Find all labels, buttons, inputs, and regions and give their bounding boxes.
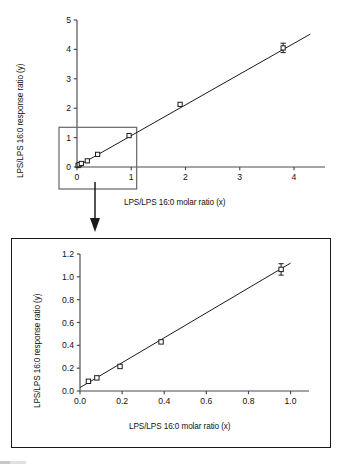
bottom-chart-data-point — [159, 340, 163, 344]
top-chart-x-tick-label: 0 — [75, 172, 80, 182]
bottom-chart-x-tick-label: 1.0 — [285, 396, 297, 406]
top-chart-data-point — [281, 46, 285, 50]
bottom-chart-data-point — [86, 379, 90, 383]
top-chart-x-tick-label: 3 — [237, 172, 242, 182]
bottom-chart-x-tick-label: 0.4 — [158, 396, 170, 406]
bottom-chart-data-point — [118, 364, 122, 368]
bottom-chart-y-tick-label: 1.0 — [11, 272, 74, 282]
bottom-chart-y-tick-label: 0.0 — [11, 386, 74, 396]
top-chart-y-tick-label: 0 — [0, 162, 71, 172]
top-chart-y-tick-label: 3 — [0, 74, 71, 84]
top-chart-y-tick-label: 5 — [0, 15, 71, 25]
figure-container: LPS/LPS 16:0 response ratio (y) LPS/LPS … — [0, 0, 346, 467]
bottom-chart-panel: LPS/LPS 16:0 response ratio (y) LPS/LPS … — [11, 238, 331, 448]
bottom-chart-y-tick-label: 1.2 — [11, 249, 74, 259]
top-chart-x-axis-title: LPS/LPS 16:0 molar ratio (x) — [124, 198, 225, 207]
bottom-chart-data-point — [95, 376, 99, 380]
bottom-chart-y-tick-label: 0.4 — [11, 340, 74, 350]
caption-sliver — [0, 461, 120, 464]
top-chart-x-tick-label: 4 — [292, 172, 297, 182]
top-chart-data-point — [85, 159, 89, 163]
bottom-chart-y-tick-label: 0.8 — [11, 295, 74, 305]
top-chart-x-tick-label: 1 — [129, 172, 134, 182]
top-chart-data-point — [127, 133, 131, 137]
bottom-chart-y-tick-label: 0.6 — [11, 318, 74, 328]
top-chart-y-tick-label: 1 — [0, 133, 71, 143]
top-chart-x-tick-label: 2 — [183, 172, 188, 182]
bottom-chart-x-tick-label: 0.6 — [200, 396, 212, 406]
top-chart-data-point — [178, 102, 182, 106]
top-chart-data-point — [96, 152, 100, 156]
bottom-chart-x-tick-label: 0.2 — [116, 396, 128, 406]
top-chart-y-tick-label: 4 — [0, 44, 71, 54]
top-chart-y-tick-label: 2 — [0, 103, 71, 113]
bottom-chart-data-point — [279, 267, 283, 271]
bottom-chart-x-tick-label: 0.8 — [242, 396, 254, 406]
bottom-chart-x-tick-label: 0.0 — [74, 396, 86, 406]
top-chart-panel: LPS/LPS 16:0 response ratio (y) LPS/LPS … — [0, 0, 346, 225]
top-chart-data-point — [79, 161, 83, 165]
bottom-chart-y-tick-label: 0.2 — [11, 363, 74, 373]
bottom-chart-x-axis-title: LPS/LPS 16:0 molar ratio (x) — [129, 422, 230, 431]
